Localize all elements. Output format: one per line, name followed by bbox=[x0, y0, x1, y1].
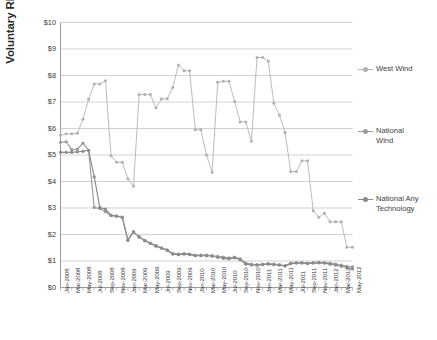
data-point bbox=[300, 262, 303, 265]
data-point bbox=[171, 86, 174, 89]
data-point bbox=[216, 256, 219, 259]
series-west-wind bbox=[59, 56, 354, 249]
y-tick-label: $9 bbox=[26, 44, 56, 53]
data-point bbox=[98, 206, 101, 209]
legend-entry[interactable]: National Any Technology bbox=[358, 194, 419, 213]
data-point bbox=[171, 253, 174, 256]
x-tick-label: Jan-2009 bbox=[130, 268, 137, 293]
data-point bbox=[138, 93, 141, 96]
data-point bbox=[205, 154, 208, 157]
data-point bbox=[239, 120, 242, 123]
data-point bbox=[267, 59, 270, 62]
data-point bbox=[227, 80, 230, 83]
data-point bbox=[93, 82, 96, 85]
x-tick-label: Sep-2011 bbox=[310, 267, 317, 292]
y-tick-label: $10 bbox=[26, 18, 56, 27]
data-point bbox=[317, 261, 320, 264]
data-point bbox=[199, 128, 202, 131]
data-point bbox=[70, 151, 73, 154]
data-point bbox=[65, 132, 68, 135]
x-tick-label: Jan-2011 bbox=[265, 268, 272, 292]
data-point bbox=[334, 264, 337, 267]
data-point bbox=[312, 209, 315, 212]
data-point bbox=[121, 161, 124, 164]
data-point bbox=[328, 263, 331, 266]
data-point bbox=[160, 247, 163, 250]
data-point bbox=[132, 230, 135, 233]
data-point bbox=[233, 100, 236, 103]
y-tick-label: $1 bbox=[26, 256, 56, 265]
data-point bbox=[351, 267, 354, 270]
y-tick-label: $2 bbox=[26, 230, 56, 239]
x-tick-label: May-2008 bbox=[85, 266, 92, 292]
x-tick-label: Jan-2008 bbox=[63, 268, 70, 293]
data-point bbox=[121, 216, 124, 219]
data-point bbox=[345, 246, 348, 249]
data-point bbox=[323, 212, 326, 215]
data-point bbox=[183, 69, 186, 72]
y-tick-label: $5 bbox=[26, 150, 56, 159]
data-point bbox=[272, 263, 275, 266]
data-point bbox=[340, 220, 343, 223]
data-point bbox=[244, 120, 247, 123]
data-point bbox=[312, 262, 315, 265]
data-point bbox=[194, 128, 197, 131]
data-point bbox=[149, 242, 152, 245]
data-point bbox=[317, 216, 320, 219]
data-point bbox=[138, 236, 141, 239]
data-point bbox=[132, 185, 135, 188]
data-point bbox=[295, 262, 298, 265]
data-point bbox=[104, 79, 107, 82]
data-point bbox=[115, 214, 118, 217]
data-point bbox=[250, 140, 253, 143]
chart-figure: Voluntary REC price ($/MWh) $0$1$2$3$4$5… bbox=[0, 0, 437, 340]
data-point bbox=[272, 102, 275, 105]
data-point bbox=[70, 132, 73, 135]
data-point bbox=[81, 141, 84, 144]
data-point bbox=[222, 80, 225, 83]
x-tick-label: May-2012 bbox=[355, 266, 362, 292]
data-point bbox=[289, 170, 292, 173]
series-line bbox=[61, 57, 353, 247]
data-point bbox=[340, 265, 343, 268]
y-tick-label: $7 bbox=[26, 97, 56, 106]
data-point bbox=[76, 150, 79, 153]
data-point bbox=[211, 171, 214, 174]
legend-label: West Wind bbox=[376, 64, 413, 74]
data-point bbox=[149, 93, 152, 96]
series-national-any-technology bbox=[59, 149, 354, 271]
x-tick-label: Jul-2009 bbox=[164, 270, 171, 293]
x-tick-label: Mar-2010 bbox=[209, 267, 216, 292]
data-point bbox=[306, 262, 309, 265]
data-point bbox=[244, 263, 247, 266]
data-point bbox=[154, 106, 157, 109]
legend-marker-icon bbox=[358, 65, 373, 74]
data-point bbox=[233, 256, 236, 259]
x-tick-label: Nov-2011 bbox=[321, 267, 328, 292]
data-point bbox=[289, 262, 292, 265]
data-point bbox=[76, 132, 79, 135]
data-point bbox=[160, 97, 163, 100]
data-point bbox=[261, 56, 264, 59]
data-point bbox=[81, 150, 84, 153]
data-point bbox=[261, 263, 264, 266]
data-point bbox=[278, 114, 281, 117]
series-national-wind bbox=[59, 140, 354, 268]
data-point bbox=[65, 140, 68, 143]
data-point bbox=[284, 131, 287, 134]
x-tick-label: May-2011 bbox=[287, 267, 294, 293]
data-point bbox=[126, 239, 129, 242]
legend-entry[interactable]: National Wind bbox=[358, 126, 404, 145]
data-point bbox=[93, 206, 96, 209]
data-point bbox=[81, 118, 84, 121]
x-tick-label: Mar-2011 bbox=[276, 268, 283, 293]
data-point bbox=[351, 246, 354, 249]
legend-entry[interactable]: West Wind bbox=[358, 64, 413, 74]
x-tick-label: Jan-2012 bbox=[332, 268, 339, 293]
x-tick-label: Nov-2009 bbox=[186, 267, 193, 293]
data-point bbox=[59, 151, 62, 154]
x-tick-label: Nov-2010 bbox=[254, 267, 261, 293]
y-tick-label: $4 bbox=[26, 177, 56, 186]
data-point bbox=[334, 220, 337, 223]
x-tick-label: Sep-2009 bbox=[175, 267, 182, 293]
